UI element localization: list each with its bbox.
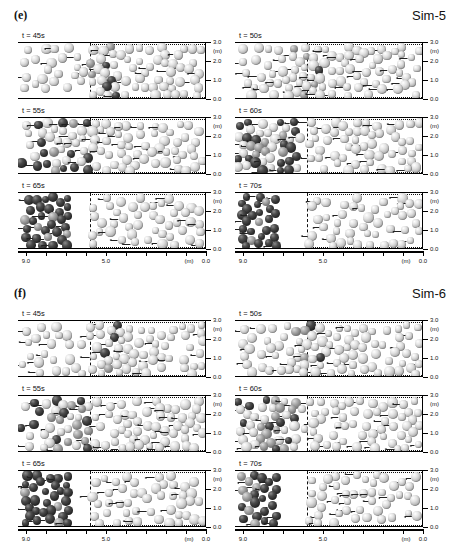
velocity-vector xyxy=(325,157,330,158)
velocity-vector xyxy=(82,64,86,65)
y-axis-tick xyxy=(423,320,428,321)
velocity-vector xyxy=(81,357,90,358)
x-axis-unit-label: (m) xyxy=(185,258,194,264)
velocity-vector xyxy=(365,447,370,448)
light-particle xyxy=(72,441,81,450)
velocity-vector xyxy=(379,497,387,498)
x-axis-tick xyxy=(263,529,264,534)
light-particle xyxy=(413,65,421,73)
velocity-vector xyxy=(393,231,401,232)
reservoir-edge-line xyxy=(307,375,422,376)
light-particle xyxy=(304,239,314,249)
light-particle xyxy=(260,442,269,451)
light-particle xyxy=(106,202,114,210)
y-axis-tick xyxy=(206,211,211,212)
light-particle xyxy=(184,121,193,130)
velocity-vector xyxy=(397,170,405,171)
velocity-vector xyxy=(91,50,98,51)
x-axis-tick xyxy=(46,529,47,534)
y-axis-tick xyxy=(423,230,428,231)
y-axis-tick xyxy=(206,136,211,137)
light-particle xyxy=(96,330,105,339)
dark-particle xyxy=(33,161,42,170)
x-axis-tick xyxy=(146,251,147,256)
dark-particle xyxy=(29,483,39,493)
x-axis-tick xyxy=(383,529,384,534)
velocity-vector xyxy=(111,240,118,241)
simulation-domain xyxy=(18,470,206,527)
light-particle xyxy=(21,402,30,411)
light-particle xyxy=(362,513,371,522)
light-particle xyxy=(374,151,384,161)
light-particle xyxy=(170,241,178,249)
y-axis-tick xyxy=(423,527,428,528)
light-particle xyxy=(105,489,113,497)
light-particle xyxy=(22,73,31,82)
light-particle xyxy=(157,331,166,340)
x-axis-tick xyxy=(423,251,424,256)
dark-particle xyxy=(83,165,93,174)
velocity-vector xyxy=(19,342,25,343)
velocity-vector xyxy=(347,446,352,447)
section-e: (e) Sim-5 t = 45s3.02.01.00.0(m)t = 50s3… xyxy=(0,0,460,278)
light-particle xyxy=(57,428,65,436)
dark-particle xyxy=(42,488,49,495)
light-particle xyxy=(134,211,142,219)
light-particle xyxy=(111,438,119,446)
y-axis-tick xyxy=(423,249,428,250)
y-axis-tick-label: 2.0 xyxy=(213,133,221,139)
velocity-vector xyxy=(336,427,341,428)
light-particle xyxy=(415,118,423,127)
x-axis-tick xyxy=(243,529,244,534)
velocity-vector xyxy=(98,232,105,233)
velocity-vector xyxy=(241,146,246,147)
light-particle xyxy=(415,144,423,152)
light-particle xyxy=(95,320,104,329)
light-particle xyxy=(242,161,251,170)
light-particle xyxy=(307,201,318,212)
simulation-domain xyxy=(235,42,423,99)
light-particle xyxy=(198,362,205,369)
velocity-vector xyxy=(18,509,25,510)
light-particle xyxy=(310,127,318,135)
x-axis: 9.05.00.0(m) xyxy=(18,251,206,267)
dark-particle xyxy=(70,163,79,172)
light-particle xyxy=(133,517,143,527)
velocity-vector xyxy=(27,477,31,478)
light-particle xyxy=(406,137,414,145)
light-particle xyxy=(97,147,105,155)
light-particle xyxy=(158,199,165,206)
velocity-vector xyxy=(25,425,29,426)
light-particle xyxy=(380,241,389,249)
light-particle xyxy=(113,519,121,527)
velocity-vector xyxy=(125,481,130,482)
light-particle xyxy=(194,206,204,216)
light-particle xyxy=(306,497,316,507)
light-particle xyxy=(157,491,166,500)
light-particle xyxy=(78,405,86,413)
light-particle xyxy=(358,343,367,352)
velocity-vector xyxy=(169,425,173,426)
light-particle xyxy=(92,162,101,171)
velocity-vector xyxy=(333,215,338,216)
y-axis-tick xyxy=(206,80,211,81)
light-particle xyxy=(116,369,123,376)
light-particle xyxy=(25,442,34,451)
light-particle xyxy=(196,413,206,424)
light-particle xyxy=(315,154,323,162)
dark-particle xyxy=(236,122,244,130)
light-particle xyxy=(338,210,347,219)
light-particle xyxy=(103,509,111,517)
y-axis-tick-label: 2.0 xyxy=(430,58,438,64)
dark-particle xyxy=(277,159,285,167)
light-particle xyxy=(362,68,371,77)
light-particle xyxy=(398,138,406,146)
light-particle xyxy=(259,84,269,94)
light-particle xyxy=(77,340,86,349)
velocity-vector xyxy=(80,336,86,337)
light-particle xyxy=(20,58,29,67)
light-particle xyxy=(308,355,316,363)
light-particle xyxy=(139,351,147,359)
light-particle xyxy=(284,322,292,330)
light-particle xyxy=(258,403,267,412)
